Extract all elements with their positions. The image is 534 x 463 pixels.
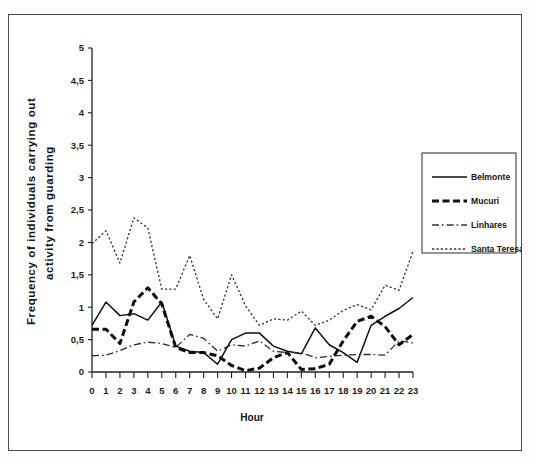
- x-tick-label: 11: [240, 385, 251, 396]
- x-tick-label: 14: [282, 385, 293, 396]
- y-axis-tick-labels: 00,511,522,533,544,55: [71, 42, 85, 377]
- series-lines: [92, 218, 413, 371]
- y-axis-title-line-1: Frequency of individuals carrying out: [25, 98, 37, 325]
- x-tick-label: 20: [366, 385, 377, 396]
- line-chart: 00,511,522,533,544,55 012345678910111213…: [9, 15, 521, 450]
- x-tick-label: 3: [131, 385, 136, 396]
- y-tick-label: 4,5: [71, 75, 85, 86]
- y-tick-label: 4: [79, 107, 85, 118]
- series-line-mucuri: [92, 288, 413, 371]
- y-tick-label: 0: [79, 366, 84, 377]
- y-tick-label: 5: [79, 42, 85, 53]
- x-tick-label: 6: [173, 385, 178, 396]
- legend-border: [422, 153, 516, 253]
- x-tick-label: 13: [268, 385, 279, 396]
- x-tick-label: 0: [89, 385, 94, 396]
- x-tick-label: 17: [324, 385, 335, 396]
- series-line-santa-teresa: [92, 218, 413, 326]
- y-tick-label: 3: [79, 172, 84, 183]
- y-axis-title-line-2: activity from guarding: [43, 146, 55, 280]
- x-axis-title: Hour: [240, 412, 263, 423]
- x-tick-label: 5: [159, 385, 165, 396]
- x-tick-label: 9: [215, 385, 220, 396]
- x-tick-label: 21: [380, 385, 391, 396]
- legend-label-santa-teresa: Santa Teresa: [471, 244, 521, 254]
- legend: BelmonteMucuriLinharesSanta Teresa: [422, 153, 521, 254]
- x-tick-label: 7: [187, 385, 192, 396]
- x-tick-label: 4: [145, 385, 151, 396]
- x-tick-label: 16: [310, 385, 321, 396]
- x-tick-label: 15: [296, 385, 307, 396]
- x-axis-ticks: [92, 372, 413, 378]
- y-tick-label: 2: [79, 237, 84, 248]
- y-axis-title: Frequency of individuals carrying out ac…: [25, 98, 55, 325]
- x-axis-tick-labels: 01234567891011121314151617181920212223: [89, 385, 418, 396]
- legend-label-belmonte: Belmonte: [471, 172, 510, 182]
- x-tick-label: 19: [352, 385, 363, 396]
- y-tick-label: 1: [79, 302, 85, 313]
- figure-outer-border: 00,511,522,533,544,55 012345678910111213…: [8, 14, 522, 451]
- y-tick-label: 0,5: [71, 334, 85, 345]
- x-tick-label: 1: [103, 385, 109, 396]
- x-tick-label: 22: [394, 385, 405, 396]
- x-tick-label: 10: [226, 385, 237, 396]
- x-tick-label: 2: [117, 385, 122, 396]
- legend-label-mucuri: Mucuri: [471, 196, 499, 206]
- y-tick-label: 3,5: [71, 140, 85, 151]
- y-tick-label: 2,5: [71, 204, 85, 215]
- series-line-linhares: [92, 334, 413, 357]
- figure-root: 00,511,522,533,544,55 012345678910111213…: [0, 0, 534, 463]
- x-tick-label: 8: [201, 385, 206, 396]
- y-tick-label: 1,5: [71, 269, 85, 280]
- legend-label-linhares: Linhares: [471, 220, 507, 230]
- x-tick-label: 18: [338, 385, 349, 396]
- x-tick-label: 23: [408, 385, 419, 396]
- x-tick-label: 12: [254, 385, 265, 396]
